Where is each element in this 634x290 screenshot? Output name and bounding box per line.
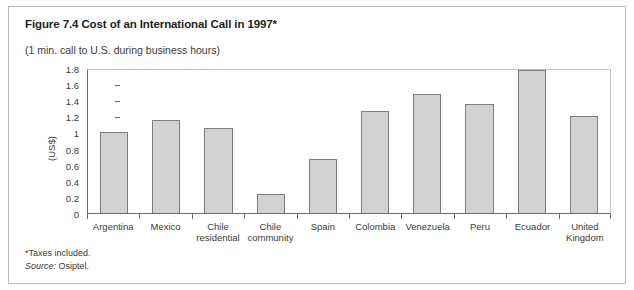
y-axis-ticks: 00.20.40.60.811.21.41.61.8: [57, 69, 83, 214]
y-tick-label: 1.4: [66, 96, 79, 107]
bar-slot: [401, 70, 453, 213]
y-tick-label: 1.2: [66, 112, 79, 123]
x-tick-mark: [454, 214, 455, 219]
x-tick-slot: [87, 214, 139, 220]
x-tick-slot: [349, 214, 401, 220]
bar-slot: [506, 70, 558, 213]
bar: [465, 104, 493, 213]
x-tick-label: Colombia: [349, 221, 401, 243]
y-tick-label: 1.6: [66, 80, 79, 91]
x-tick-label: Spain: [297, 221, 349, 243]
chart-plot: (US$) 00.20.40.60.811.21.41.61.8 Argenti…: [25, 69, 611, 229]
bar-slot: [140, 70, 192, 213]
bar-slot: [192, 70, 244, 213]
figure-frame: Figure 7.4 Cost of an International Call…: [8, 6, 626, 284]
bar: [204, 128, 232, 213]
x-tick-label: Argentina: [87, 221, 139, 243]
x-tick-mark: [192, 214, 193, 219]
x-tick-mark: [297, 214, 298, 219]
footnote-source-label: Source:: [25, 261, 56, 271]
bar-slot: [88, 70, 140, 213]
y-axis-label: (US$): [46, 119, 57, 179]
figure-subtitle: (1 min. call to U.S. during business hou…: [25, 44, 220, 56]
x-tick-slot: [559, 214, 611, 220]
x-tick-label: Peru: [454, 221, 506, 243]
bar: [413, 94, 441, 213]
y-tick-label: 1.8: [66, 64, 79, 75]
x-axis-ticks: [87, 214, 611, 220]
bar-slot: [349, 70, 401, 213]
x-tick-mark: [244, 214, 245, 219]
plot-area: [87, 69, 611, 214]
footnote-source: Source: Osiptel.: [25, 260, 91, 273]
x-tick-label: Chile residential: [192, 221, 244, 243]
bar: [361, 111, 389, 213]
y-tick-label: 0.6: [66, 160, 79, 171]
bar: [309, 159, 337, 213]
bar: [518, 70, 546, 213]
x-tick-mark: [401, 214, 402, 219]
x-tick-mark: [349, 214, 350, 219]
bar: [152, 120, 180, 213]
y-tick-label: 0.4: [66, 176, 79, 187]
bar-slot: [453, 70, 505, 213]
x-tick-slot: [192, 214, 244, 220]
x-tick-slot: [139, 214, 191, 220]
x-tick-slot: [454, 214, 506, 220]
x-tick-slot: [506, 214, 558, 220]
x-tick-mark: [87, 214, 88, 219]
x-tick-label: Ecuador: [506, 221, 558, 243]
x-tick-label: Chile community: [244, 221, 296, 243]
figure-footnotes: *Taxes included. Source: Osiptel.: [25, 247, 91, 273]
figure-title: Figure 7.4 Cost of an International Call…: [25, 18, 277, 30]
x-tick-label: Mexico: [139, 221, 191, 243]
bar: [257, 194, 285, 213]
x-tick-mark: [139, 214, 140, 219]
y-tick-label: 0.2: [66, 192, 79, 203]
y-tick-label: 0: [74, 209, 79, 220]
y-tick-label: 1: [74, 128, 79, 139]
x-tick-slot: [401, 214, 453, 220]
x-tick-mark: [559, 214, 560, 219]
x-tick-slot: [297, 214, 349, 220]
bar: [100, 132, 128, 213]
x-axis-labels: ArgentinaMexicoChile residentialChile co…: [87, 221, 611, 243]
x-tick-mark: [506, 214, 507, 219]
footnote-source-value: Osiptel.: [59, 261, 90, 271]
footnote-taxes: *Taxes included.: [25, 247, 91, 260]
bar: [570, 116, 598, 213]
bar-series: [88, 70, 610, 213]
x-tick-mark: [610, 214, 611, 219]
bar-slot: [245, 70, 297, 213]
x-tick-label: United Kingdom: [559, 221, 611, 243]
y-tick-label: 0.8: [66, 144, 79, 155]
x-tick-label: Venezuela: [401, 221, 453, 243]
bar-slot: [297, 70, 349, 213]
bar-slot: [558, 70, 610, 213]
x-tick-slot: [244, 214, 296, 220]
